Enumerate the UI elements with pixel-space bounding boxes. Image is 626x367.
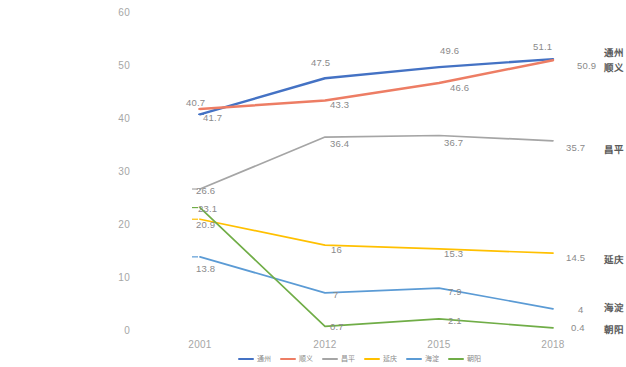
data-label-chaoyang-2018: 0.4 <box>571 322 585 333</box>
series-end-label-chaoyang: 朝阳 <box>604 322 624 336</box>
data-label-changping-2018: 35.7 <box>566 142 585 153</box>
series-line-3 <box>200 219 553 253</box>
legend-item-tongzhou[interactable]: 通州 <box>238 355 271 363</box>
data-label-shunyi-2012: 43.3 <box>330 99 349 110</box>
data-label-yanqing-2015: 15.3 <box>444 248 463 259</box>
data-label-shunyi-2001: 41.7 <box>203 112 222 123</box>
legend-label-haidian: 海淀 <box>425 355 439 363</box>
legend-label-shunyi: 顺义 <box>299 355 313 363</box>
data-label-yanqing-2018: 14.5 <box>566 252 585 263</box>
data-label-yanqing-2001: 20.9 <box>196 219 215 230</box>
legend-swatch-yanqing <box>364 358 380 360</box>
data-label-tongzhou-2012: 47.5 <box>311 57 330 68</box>
data-label-chaoyang-2015: 2.1 <box>448 315 462 326</box>
legend-item-yanqing[interactable]: 延庆 <box>364 355 397 363</box>
data-label-shunyi-2015: 46.6 <box>450 82 469 93</box>
series-end-label-haidian: 海淀 <box>604 300 624 314</box>
data-label-chaoyang-2001: 23.1 <box>198 203 217 214</box>
series-line-5 <box>200 208 553 328</box>
legend-swatch-shunyi <box>280 358 296 360</box>
data-label-haidian-2001: 13.8 <box>196 263 215 274</box>
series-end-label-changping: 昌平 <box>604 142 624 156</box>
plot-area <box>0 0 626 367</box>
data-label-tongzhou-2015: 49.6 <box>440 45 459 56</box>
data-label-chaoyang-2012: 0.7 <box>330 321 344 332</box>
legend-item-shunyi[interactable]: 顺义 <box>280 355 313 363</box>
legend-label-yanqing: 延庆 <box>383 355 397 363</box>
data-label-tongzhou-2018: 51.1 <box>533 41 552 52</box>
data-label-haidian-2012: 7 <box>333 289 338 300</box>
series-line-4 <box>200 257 553 309</box>
legend-item-chaoyang[interactable]: 朝阳 <box>448 355 481 363</box>
legend-label-changping: 昌平 <box>341 355 355 363</box>
data-label-shunyi-2018: 50.9 <box>577 60 596 71</box>
data-label-changping-2001: 26.6 <box>196 185 215 196</box>
legend-item-changping[interactable]: 昌平 <box>322 355 355 363</box>
legend-swatch-tongzhou <box>238 358 254 360</box>
chart-legend: 通州 顺义 昌平 延庆 海淀 朝阳 <box>238 355 481 363</box>
data-label-yanqing-2012: 16 <box>331 244 342 255</box>
legend-label-chaoyang: 朝阳 <box>467 355 481 363</box>
legend-item-haidian[interactable]: 海淀 <box>406 355 439 363</box>
series-line-2 <box>200 135 553 189</box>
series-end-label-yanqing: 延庆 <box>604 252 624 266</box>
legend-swatch-changping <box>322 358 338 360</box>
series-end-label-shunyi: 顺义 <box>604 60 624 74</box>
legend-swatch-chaoyang <box>448 358 464 360</box>
data-label-changping-2015: 36.7 <box>444 137 463 148</box>
data-label-haidian-2018: 4 <box>578 304 583 315</box>
data-label-tongzhou-2001: 40.7 <box>186 97 205 108</box>
line-chart: 60 50 40 30 20 10 0 2001 2012 2015 2018 … <box>0 0 626 367</box>
legend-label-tongzhou: 通州 <box>257 355 271 363</box>
series-end-label-tongzhou: 通州 <box>604 45 624 59</box>
series-line-1 <box>200 60 553 109</box>
legend-swatch-haidian <box>406 358 422 360</box>
data-label-haidian-2015: 7.9 <box>448 286 462 297</box>
data-label-changping-2012: 36.4 <box>330 138 349 149</box>
